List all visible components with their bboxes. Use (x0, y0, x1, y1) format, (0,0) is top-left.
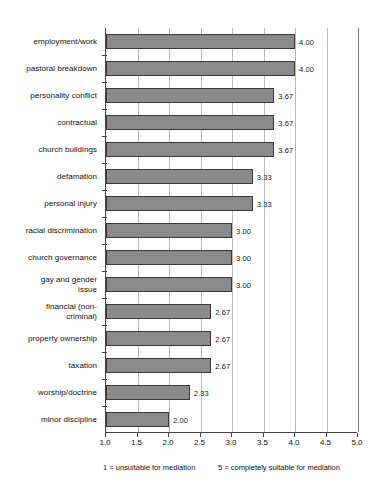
category-label: financial (non- criminal) (46, 302, 97, 321)
bar-row: 3.00 (106, 250, 357, 265)
bar-value-label: 2.67 (215, 361, 230, 370)
bar (106, 142, 274, 157)
category-tick (102, 298, 107, 299)
category-label: gay and gender issue (41, 275, 97, 294)
bar-row: 2.67 (106, 358, 357, 373)
plot-area: 4.004.003.673.673.673.333.333.003.003.00… (105, 28, 357, 433)
category-label: worship/doctrine (38, 388, 97, 398)
bar-value-label: 4.00 (299, 37, 314, 46)
category-tick (102, 82, 107, 83)
bar-row: 2.67 (106, 331, 357, 346)
category-tick (102, 244, 107, 245)
scale-note-high: 5 = completely suitable for mediation (218, 463, 340, 472)
bar (106, 88, 274, 103)
bar-value-label: 3.67 (278, 145, 293, 154)
value-tick (326, 433, 327, 437)
value-tick (137, 433, 138, 437)
category-tick (102, 406, 107, 407)
bar-value-label: 3.67 (278, 118, 293, 127)
category-tick (102, 190, 107, 191)
bar-row: 2.00 (106, 412, 357, 427)
scale-notes: 1 = unsuitable for mediation 5 = complet… (0, 463, 379, 483)
bar (106, 277, 232, 292)
category-tick (102, 325, 107, 326)
category-tick (102, 379, 107, 380)
bar-value-label: 3.00 (236, 280, 251, 289)
bar-row: 3.33 (106, 196, 357, 211)
bar (106, 385, 190, 400)
bar-value-label: 3.67 (278, 91, 293, 100)
category-label: personal injury (44, 199, 97, 209)
category-tick (102, 136, 107, 137)
bar-row: 4.00 (106, 34, 357, 49)
bar-row: 3.00 (106, 223, 357, 238)
bar-row: 3.67 (106, 142, 357, 157)
bar-value-label: 4.00 (299, 64, 314, 73)
value-tick-label: 1.5 (131, 438, 142, 447)
value-tick (200, 433, 201, 437)
value-tick (168, 433, 169, 437)
category-label: personality conflict (30, 91, 97, 101)
bar (106, 250, 232, 265)
bar (106, 358, 211, 373)
bar-row: 3.67 (106, 88, 357, 103)
gridline (358, 28, 359, 432)
bar (106, 115, 274, 130)
category-label: property ownership (28, 334, 97, 344)
category-label: racial discrimination (26, 226, 97, 236)
bar-rows: 4.004.003.673.673.673.333.333.003.003.00… (106, 28, 357, 432)
category-tick (102, 55, 107, 56)
value-axis: 1.01.52.02.53.03.54.04.55.0 (105, 433, 357, 455)
category-tick (102, 163, 107, 164)
bar-row: 3.33 (106, 169, 357, 184)
bar-row: 3.00 (106, 277, 357, 292)
value-tick (294, 433, 295, 437)
bar-value-label: 2.00 (173, 415, 188, 424)
value-tick-label: 2.5 (194, 438, 205, 447)
category-label: church buildings (38, 145, 97, 155)
category-axis-labels: employment/workpastoral breakdownpersona… (0, 28, 101, 433)
bar-value-label: 3.00 (236, 226, 251, 235)
value-tick (357, 433, 358, 437)
value-tick-label: 5.0 (351, 438, 362, 447)
category-label: taxation (69, 361, 97, 371)
bar (106, 331, 211, 346)
category-label: church governance (28, 253, 97, 263)
bar-row: 2.67 (106, 304, 357, 319)
bar (106, 412, 169, 427)
category-label: pastoral breakdown (26, 64, 97, 74)
bar-value-label: 3.00 (236, 253, 251, 262)
bar (106, 61, 295, 76)
bar (106, 304, 211, 319)
bar-row: 3.67 (106, 115, 357, 130)
bar (106, 34, 295, 49)
value-tick (263, 433, 264, 437)
value-tick-label: 3.0 (225, 438, 236, 447)
value-tick (231, 433, 232, 437)
bar-value-label: 2.67 (215, 307, 230, 316)
bar-chart: employment/workpastoral breakdownpersona… (0, 0, 379, 500)
category-tick (102, 109, 107, 110)
value-tick-label: 4.0 (288, 438, 299, 447)
category-label: contractual (57, 118, 97, 128)
category-label: employment/work (34, 37, 97, 47)
value-tick-label: 2.0 (162, 438, 173, 447)
value-tick-label: 3.5 (257, 438, 268, 447)
value-tick (105, 433, 106, 437)
bar (106, 169, 253, 184)
bar-value-label: 3.33 (257, 172, 272, 181)
category-tick (102, 217, 107, 218)
bar-value-label: 2.67 (215, 334, 230, 343)
bar-row: 2.33 (106, 385, 357, 400)
value-tick-label: 4.5 (320, 438, 331, 447)
bar-value-label: 2.33 (194, 388, 209, 397)
bar-value-label: 3.33 (257, 199, 272, 208)
bar (106, 223, 232, 238)
category-label: defamation (57, 172, 97, 182)
category-label: minor discipline (41, 415, 97, 425)
bar-row: 4.00 (106, 61, 357, 76)
category-tick (102, 271, 107, 272)
category-tick (102, 352, 107, 353)
bar (106, 196, 253, 211)
scale-note-low: 1 = unsuitable for mediation (103, 463, 195, 472)
